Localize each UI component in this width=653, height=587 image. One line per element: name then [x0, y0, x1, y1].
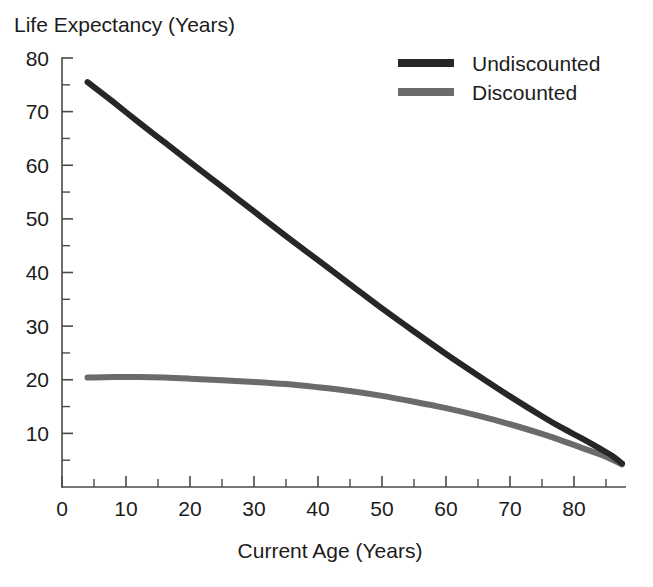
y-tick-label: 70 [26, 100, 49, 123]
x-tick-label: 70 [498, 497, 521, 520]
y-tick-label: 50 [26, 207, 49, 230]
x-tick-label: 50 [370, 497, 393, 520]
legend-label-undiscounted: Undiscounted [472, 52, 600, 75]
legend-label-discounted: Discounted [472, 81, 577, 104]
x-axis-tick-labels: 01020304050607080 [56, 497, 586, 520]
y-tick-label: 30 [26, 315, 49, 338]
y-tick-label: 80 [26, 47, 49, 70]
y-tick-label: 10 [26, 422, 49, 445]
chart-container: Life Expectancy (Years) 1020304050607080… [0, 0, 653, 587]
x-tick-label: 20 [178, 497, 201, 520]
x-tick-label: 30 [242, 497, 265, 520]
x-tick-label: 10 [114, 497, 137, 520]
x-tick-label: 60 [434, 497, 457, 520]
y-axis-title: Life Expectancy (Years) [14, 13, 235, 36]
x-tick-label: 80 [562, 497, 585, 520]
y-tick-label: 40 [26, 261, 49, 284]
y-tick-label: 20 [26, 368, 49, 391]
x-tick-label: 40 [306, 497, 329, 520]
y-tick-label: 60 [26, 154, 49, 177]
life-expectancy-line-chart: Life Expectancy (Years) 1020304050607080… [0, 0, 653, 587]
x-tick-label: 0 [56, 497, 68, 520]
x-axis-title: Current Age (Years) [238, 539, 423, 562]
